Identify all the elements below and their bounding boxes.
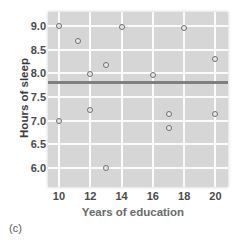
data-point — [87, 107, 93, 113]
data-point — [56, 23, 62, 29]
data-point — [75, 38, 81, 44]
data-point — [212, 56, 218, 62]
y-tick-label: 8.0 — [14, 67, 46, 79]
y-tick-label: 9.0 — [14, 20, 46, 32]
data-point — [212, 111, 218, 117]
data-point — [150, 72, 156, 78]
x-axis-tick-labels: 101214161820 — [48, 190, 228, 206]
x-tick-label: 12 — [77, 190, 103, 202]
y-tick-label: 7.0 — [14, 115, 46, 127]
data-point — [103, 62, 109, 68]
gridline-horizontal — [48, 49, 228, 51]
gridline-vertical — [214, 12, 216, 187]
gridline-horizontal — [48, 25, 228, 27]
y-tick-label: 7.5 — [14, 91, 46, 103]
data-point — [119, 24, 125, 30]
regression-line — [48, 81, 228, 84]
data-point — [87, 71, 93, 77]
x-tick-label: 20 — [202, 190, 228, 202]
gridline-horizontal — [48, 167, 228, 169]
x-tick-label: 14 — [109, 190, 135, 202]
x-tick-label: 18 — [171, 190, 197, 202]
data-point — [166, 125, 172, 131]
x-axis-title: Years of education — [28, 206, 238, 218]
y-axis-tick-labels: 6.06.57.07.58.08.59.0 — [14, 12, 46, 187]
data-point — [166, 111, 172, 117]
y-tick-label: 8.5 — [14, 44, 46, 56]
y-tick-label: 6.0 — [14, 162, 46, 174]
plot-area — [48, 12, 228, 187]
gridline-horizontal — [48, 96, 228, 98]
gridline-vertical — [121, 12, 123, 187]
panel-letter-label: (c) — [9, 222, 22, 234]
x-tick-label: 10 — [46, 190, 72, 202]
gridline-horizontal — [48, 120, 228, 122]
gridline-vertical — [89, 12, 91, 187]
gridline-horizontal — [48, 143, 228, 145]
data-point — [56, 118, 62, 124]
gridline-vertical — [183, 12, 185, 187]
gridline-vertical — [58, 12, 60, 187]
gridline-horizontal — [48, 72, 228, 74]
x-tick-label: 16 — [140, 190, 166, 202]
data-point — [103, 165, 109, 171]
y-tick-label: 6.5 — [14, 138, 46, 150]
data-point — [181, 25, 187, 31]
gridline-vertical — [152, 12, 154, 187]
scatter-plot-figure: Hours of sleep 6.06.57.07.58.08.59.0 101… — [0, 0, 241, 246]
